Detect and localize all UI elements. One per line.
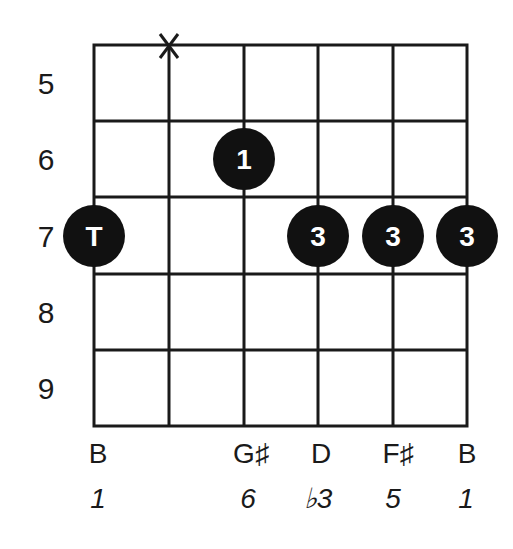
note-string-5: F♯ [382, 438, 413, 469]
note-string-4: D [311, 438, 331, 469]
fret-number-5: 5 [38, 67, 55, 100]
note-names: B G♯ D F♯ B [89, 438, 477, 469]
dot-finger-3: 3 [436, 205, 498, 267]
dot-label: 3 [459, 221, 475, 252]
interval-labels: 1 6 ♭3 5 1 [90, 483, 474, 514]
dot-finger-3: 3 [287, 205, 349, 267]
fret-number-6: 6 [38, 143, 55, 176]
interval-string-1: 1 [90, 483, 106, 514]
dot-label: 1 [236, 144, 252, 175]
fret-number-8: 8 [38, 296, 55, 329]
note-string-3: G♯ [233, 438, 269, 469]
note-string-1: B [89, 438, 108, 469]
chord-diagram: 5 6 7 8 9 T 1 3 3 3 B [0, 0, 513, 549]
dot-label: T [85, 221, 102, 252]
dot-finger-3: 3 [362, 205, 424, 267]
interval-string-3: 6 [240, 483, 256, 514]
fret-number-7: 7 [38, 220, 55, 253]
dot-label: 3 [385, 221, 401, 252]
interval-string-5: 5 [385, 483, 401, 514]
note-string-6: B [458, 438, 477, 469]
fret-number-9: 9 [38, 372, 55, 405]
dot-finger-1: 1 [213, 128, 275, 190]
fret-numbers: 5 6 7 8 9 [38, 67, 55, 405]
dot-root-T: T [63, 205, 125, 267]
dot-label: 3 [310, 221, 326, 252]
interval-string-6: 1 [458, 483, 474, 514]
interval-string-4: ♭3 [304, 483, 333, 514]
